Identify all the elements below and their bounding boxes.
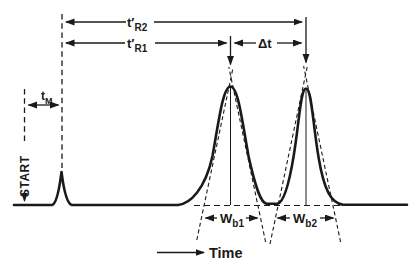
w-b1-label: Wb1 — [220, 211, 244, 229]
w-b2-label: Wb2 — [293, 211, 317, 229]
baseline-width-annotations: Wb1 Wb2 — [206, 211, 334, 229]
retention-time-annotations: t′R2 t′R1 Δt tM — [29, 15, 303, 106]
delta-t-label: Δt — [258, 36, 272, 51]
t-r2-label: t′R2 — [127, 15, 148, 33]
time-axis-label: Time — [209, 245, 243, 261]
start-annotation: START — [18, 155, 32, 201]
signal-curve — [14, 87, 407, 206]
start-label: START — [18, 155, 32, 197]
time-axis-annotation: Time — [157, 245, 243, 261]
chromatogram-diagram: t′R2 t′R1 Δt tM Wb1 Wb2 START Time — [0, 0, 419, 274]
t-r1-label: t′R1 — [127, 36, 148, 54]
peak2-right-tangent — [304, 66, 341, 242]
peak1-right-tangent — [229, 67, 266, 242]
t-m-label: tM — [41, 89, 53, 106]
